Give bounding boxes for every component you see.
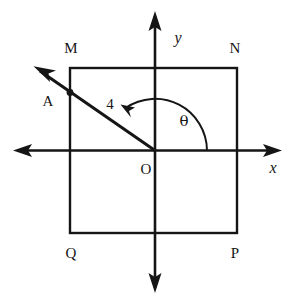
vertex-label-p: P [231,246,239,261]
vertex-label-n: N [230,41,241,56]
y-axis-label: y [174,30,181,46]
vertex-label-m: M [64,41,77,56]
angle-theta-label: θ [179,114,188,129]
angle-theta-arc [126,99,208,151]
point-label-a: A [43,94,54,109]
origin-label-o: O [141,162,152,177]
point-a-marker [67,89,74,96]
geometry-figure: M N Q P A 4 θ O x y [0,0,297,304]
figure-canvas [0,0,297,304]
ray-oa-line [40,71,155,151]
vertex-label-q: Q [66,246,77,261]
angle-theta-arrowhead [121,105,136,118]
segment-length-label: 4 [106,97,114,112]
x-axis-label: x [269,160,276,176]
